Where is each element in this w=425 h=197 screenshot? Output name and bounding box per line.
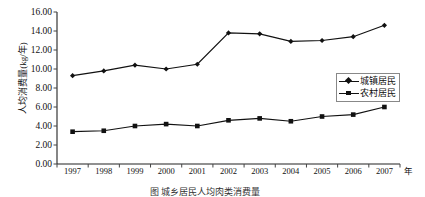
data-point-marker-square [351,112,356,117]
data-point-marker-square [289,119,294,124]
data-point-marker-diamond [257,31,262,36]
data-point-marker-diamond [319,38,324,43]
x-tick-label: 2001 [182,166,212,176]
data-point-marker-diamond [351,34,356,39]
chart-legend: 城镇居民 农村居民 [336,73,400,102]
data-point-marker-diamond [70,73,75,78]
x-tick-label: 2003 [245,166,275,176]
y-tick-label: 8.00 [18,83,52,93]
data-point-marker-square [195,124,200,129]
legend-label-urban: 城镇居民 [359,76,396,86]
y-tick-label: 10.00 [18,64,52,74]
y-tick-label: 6.00 [18,102,52,112]
data-point-marker-diamond [132,63,137,68]
data-point-marker-diamond [164,66,169,71]
legend-item-rural: 农村居民 [339,87,396,99]
legend-label-rural: 农村居民 [359,88,396,98]
y-tick-label: 12.00 [18,45,52,55]
data-point-marker-square [101,128,106,133]
y-tick-label: 14.00 [18,26,52,36]
y-tick-label: 4.00 [18,121,52,131]
data-point-marker-square [382,105,387,110]
x-tick-label: 2006 [338,166,368,176]
data-point-marker-diamond [382,23,387,28]
x-tick-label: 1997 [58,166,88,176]
legend-square-marker-icon [339,88,359,98]
x-tick-label: 2007 [369,166,399,176]
x-tick-label: 2002 [214,166,244,176]
data-point-marker-diamond [288,39,293,44]
legend-item-urban: 城镇居民 [339,75,396,87]
x-tick-label: 2000 [151,166,181,176]
line-chart: 人均消费量(kg/年) 16.0014.0012.0010.008.006.00… [0,0,425,197]
legend-diamond-marker-icon [339,76,359,86]
data-point-marker-square [226,118,231,123]
data-point-marker-square [257,116,262,121]
data-point-marker-square [320,114,325,119]
data-point-marker-square [70,129,75,134]
figure-caption: 图 城乡居民人均肉类消费量 [150,187,425,197]
y-tick-label: 16.00 [18,7,52,17]
x-axis-unit-label: 年 [404,166,413,176]
x-axis-tick-labels: 1997199819992000200120022003200420052006… [0,166,425,180]
x-tick-label: 1998 [89,166,119,176]
x-tick-label: 2005 [307,166,337,176]
data-point-marker-diamond [101,68,106,73]
y-tick-label: 2.00 [18,140,52,150]
x-tick-label: 1999 [120,166,150,176]
data-point-marker-square [164,122,169,127]
data-point-marker-square [133,124,138,129]
x-tick-label: 2004 [276,166,306,176]
